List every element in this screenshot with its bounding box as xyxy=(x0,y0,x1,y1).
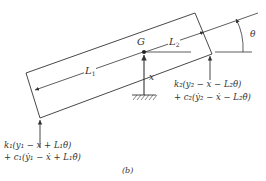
left-force-expression-c1: + c₁(ẏ₁ − ẋ + L₁θ̇) xyxy=(4,153,81,162)
right-force-expression-c2: + c₂(ẏ₂ − ẋ − L₂θ̇) xyxy=(174,93,251,102)
g-label: G xyxy=(137,37,145,47)
figure-caption: (b) xyxy=(122,167,133,175)
ground-hatch xyxy=(133,95,157,100)
l2-label: L2 xyxy=(168,37,180,48)
l1-label: L1 xyxy=(84,66,96,77)
left-force-expression-k1: k₁(y₁ − x + L₁θ) xyxy=(4,141,71,150)
theta-arc xyxy=(236,19,243,52)
right-force-expression-k2: k₂(y₂ − x − L₂θ) xyxy=(174,80,241,89)
center-of-gravity-dot xyxy=(142,50,146,54)
x-label: x xyxy=(149,73,154,82)
theta-label: θ xyxy=(250,30,255,39)
beam-body xyxy=(26,13,212,118)
